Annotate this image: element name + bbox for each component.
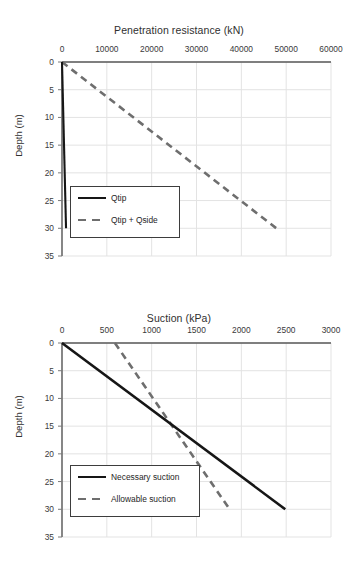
y-tick-label: 10	[32, 112, 54, 122]
y-tick-label: 15	[32, 140, 54, 150]
x-tick-label: 20000	[140, 44, 163, 54]
y-tick-label: 35	[32, 251, 54, 261]
legend-label: Qtip + Qside	[111, 215, 158, 225]
y-tick-label: 30	[32, 504, 54, 514]
legend-line-dashed-icon	[78, 494, 106, 504]
x-tick-labels: 050010001500200025003000	[0, 325, 358, 339]
y-tick-label: 15	[32, 421, 54, 431]
y-tick-label: 0	[32, 338, 54, 348]
chart-legend: Qtip Qtip + Qside	[70, 186, 180, 238]
legend-item-allowable-suction: Allowable suction	[71, 488, 199, 510]
legend-item-necessary-suction: Necessary suction	[71, 466, 199, 488]
y-tick-label: 30	[32, 223, 54, 233]
x-tick-label: 3000	[322, 325, 341, 335]
legend-label: Allowable suction	[111, 494, 176, 504]
y-tick-label: 0	[32, 57, 54, 67]
legend-line-solid-icon	[78, 193, 106, 203]
x-tick-label: 0	[60, 44, 65, 54]
y-tick-label: 25	[32, 477, 54, 487]
x-tick-label: 1000	[142, 325, 161, 335]
x-tick-label: 2000	[232, 325, 251, 335]
x-tick-label: 1500	[187, 325, 206, 335]
chart-legend: Necessary suction Allowable suction	[70, 465, 200, 517]
x-tick-label: 60000	[319, 44, 342, 54]
x-tick-label: 10000	[95, 44, 118, 54]
x-tick-label: 2500	[277, 325, 296, 335]
legend-line-solid-icon	[78, 472, 106, 482]
y-tick-label: 20	[32, 168, 54, 178]
x-tick-label: 0	[60, 325, 65, 335]
plot-area-suction: 050010001500200025003000 05101520253035 …	[0, 288, 358, 575]
legend-line-dashed-icon	[78, 215, 106, 225]
y-tick-label: 5	[32, 366, 54, 376]
legend-item-qtip-qside: Qtip + Qside	[71, 209, 179, 231]
chart-suction: Suction (kPa) 050010001500200025003000 0…	[0, 288, 358, 575]
legend-label: Necessary suction	[111, 472, 179, 482]
x-tick-label: 40000	[230, 44, 253, 54]
x-tick-label: 500	[100, 325, 114, 335]
plot-area-penetration-resistance: 0100002000030000400005000060000 05101520…	[0, 0, 358, 287]
x-tick-labels: 0100002000030000400005000060000	[0, 44, 358, 58]
y-tick-label: 25	[32, 196, 54, 206]
legend-label: Qtip	[111, 193, 126, 203]
y-tick-label: 5	[32, 85, 54, 95]
y-axis-title: Depth (m)	[13, 377, 24, 457]
figure-page: Penetration resistance (kN)	[0, 0, 358, 575]
x-tick-label: 30000	[185, 44, 208, 54]
x-tick-label: 50000	[275, 44, 298, 54]
y-tick-label: 10	[32, 393, 54, 403]
y-tick-label: 35	[32, 532, 54, 542]
chart-penetration-resistance: Penetration resistance (kN)	[0, 0, 358, 287]
y-tick-label: 20	[32, 449, 54, 459]
y-axis-title: Depth (m)	[13, 96, 24, 176]
legend-item-qtip: Qtip	[71, 187, 179, 209]
